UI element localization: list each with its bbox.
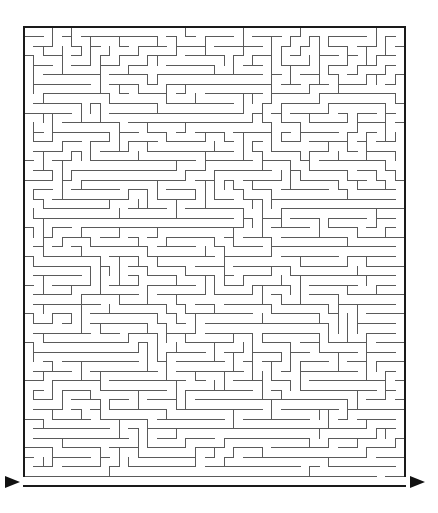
maze-board[interactable] [0,0,438,513]
entrance-arrow-icon [5,476,20,488]
maze-walls [24,27,405,476]
exit-arrow-icon [410,476,425,488]
